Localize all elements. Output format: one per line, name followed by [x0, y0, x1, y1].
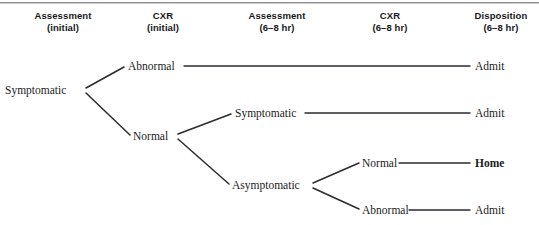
tree-edge-e-normal-to-symptomatic	[178, 114, 231, 134]
tree-node-cxr2-normal: Normal	[362, 157, 397, 169]
tree-edge-e-root-to-abnormal	[86, 67, 124, 88]
tree-node-cxr1-abnormal: Abnormal	[128, 60, 175, 72]
tree-node-disp-home: Home	[475, 157, 504, 169]
tree-edge-e-asym-to-cxr2abnormal	[313, 188, 359, 209]
tree-edge-e-root-to-normal	[86, 93, 130, 135]
tree-node-assess2-asymptomatic: Asymptomatic	[232, 179, 300, 191]
tree-node-cxr1-normal: Normal	[133, 130, 168, 142]
tree-node-cxr2-abnormal: Abnormal	[362, 204, 409, 216]
decision-tree-figure: Assessment(initial)CXR(initial)Assessmen…	[0, 0, 539, 225]
tree-node-disp-admit-1: Admit	[475, 60, 504, 72]
tree-node-root-symptomatic: Symptomatic	[5, 84, 66, 96]
tree-node-assess2-symptomatic: Symptomatic	[235, 107, 296, 119]
tree-edge-e-normal-to-asymptomatic	[178, 139, 229, 184]
tree-edge-e-asym-to-cxr2normal	[313, 163, 359, 183]
tree-node-disp-admit-3: Admit	[475, 204, 504, 216]
tree-node-disp-admit-2: Admit	[475, 107, 504, 119]
